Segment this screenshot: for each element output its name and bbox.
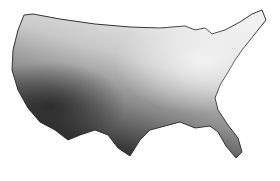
map-container [0,0,280,181]
us-map [0,0,280,181]
